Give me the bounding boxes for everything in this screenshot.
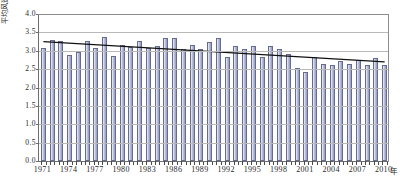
x-axis-tick-label: 1974 (60, 165, 77, 174)
gridline (39, 124, 389, 125)
x-axis-tick-label: 1992 (218, 165, 235, 174)
gridline (39, 32, 389, 33)
x-axis-tick-label: 2010 (375, 165, 392, 174)
y-axis-tick-label: 2.5 (12, 65, 36, 73)
x-axis-tick-label: 1983 (139, 165, 156, 174)
x-axis-tick-labels: 年 19711974197719801983198619891992199519… (38, 165, 398, 181)
y-axis-tick-mark (36, 143, 39, 144)
y-axis-tick-mark (36, 161, 39, 162)
y-axis-tick-mark (36, 51, 39, 52)
gridline (39, 69, 389, 70)
x-axis-tick-label: 1995 (244, 165, 261, 174)
gridline (39, 51, 389, 52)
x-axis-tick-label: 2007 (349, 165, 366, 174)
gridline (39, 143, 389, 144)
plot-frame-right-border (388, 14, 389, 162)
x-axis-tick-label: 2004 (323, 165, 340, 174)
y-axis-tick-labels: 0.00.51.01.52.02.53.03.54.0 (12, 0, 36, 194)
plot-area (38, 14, 389, 162)
y-axis-tick-label: 3.5 (12, 28, 36, 36)
y-axis-tick-mark (36, 124, 39, 125)
x-axis-tick-label: 1989 (191, 165, 208, 174)
y-axis-tick-mark (36, 32, 39, 33)
x-axis-tick-label: 1971 (34, 165, 51, 174)
wind-speed-bar-chart: 平均风速 (m/s) 0.00.51.01.52.02.53.03.54.0 年… (0, 0, 405, 194)
y-axis-tick-label: 0.5 (12, 139, 36, 147)
y-axis-tick-label: 1.0 (12, 120, 36, 128)
y-axis-tick-mark (36, 88, 39, 89)
y-axis-tick-label: 4.0 (12, 10, 36, 18)
y-axis-tick-label: 3.0 (12, 47, 36, 55)
y-axis-tick-mark (36, 106, 39, 107)
y-axis-title: 平均风速 (m/s) (0, 0, 11, 52)
x-axis-tick-label: 2001 (296, 165, 313, 174)
y-axis-tick-label: 1.5 (12, 102, 36, 110)
gridline (39, 88, 389, 89)
plot-frame-top-border (38, 14, 389, 15)
x-axis-tick-label: 1980 (113, 165, 130, 174)
gridline (39, 106, 389, 107)
y-axis-tick-label: 0.0 (12, 157, 36, 165)
y-axis-tick-mark (36, 69, 39, 70)
x-axis-tick-label: 1986 (165, 165, 182, 174)
y-axis-tick-label: 2.0 (12, 84, 36, 92)
x-axis-tick-label: 1998 (270, 165, 287, 174)
x-axis-tick-label: 1977 (86, 165, 103, 174)
